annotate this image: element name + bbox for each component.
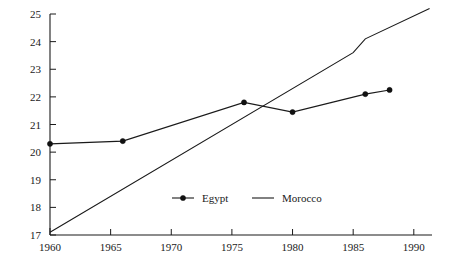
- legend-label: Morocco: [282, 192, 322, 204]
- chart-legend: EgyptMorocco: [172, 192, 322, 204]
- x-axis-tick-label: 1985: [342, 241, 365, 253]
- y-axis-tick-label: 20: [30, 146, 42, 158]
- legend-item-morocco: Morocco: [252, 192, 322, 204]
- legend-marker-dot: [180, 195, 185, 200]
- data-point: [120, 138, 125, 143]
- y-axis-tick-label: 22: [30, 91, 41, 103]
- x-axis-ticks: [50, 228, 414, 235]
- x-axis-tick-label: 1990: [403, 241, 426, 253]
- x-axis-tick-label: 1965: [100, 241, 123, 253]
- legend-item-egypt: Egypt: [172, 192, 228, 204]
- data-point: [290, 109, 295, 114]
- y-axis-tick-label: 23: [30, 63, 42, 75]
- data-point: [241, 100, 246, 105]
- x-axis-tick-label: 1960: [39, 241, 62, 253]
- y-axis-tick-label: 21: [30, 119, 41, 131]
- data-point: [363, 92, 368, 97]
- y-axis-tick-label: 19: [30, 174, 42, 186]
- x-axis-tick-label: 1980: [282, 241, 305, 253]
- y-axis-tick-label: 17: [30, 229, 42, 241]
- data-series: [47, 8, 429, 232]
- y-axis-tick-labels: 171819202122232425: [30, 8, 42, 241]
- data-point: [47, 141, 52, 146]
- x-axis-tick-label: 1970: [160, 241, 183, 253]
- y-axis-tick-label: 24: [30, 36, 42, 48]
- series-line-morocco: [50, 8, 430, 232]
- series-morocco: [50, 8, 430, 232]
- data-point: [387, 87, 392, 92]
- series-line-egypt: [50, 90, 390, 144]
- x-axis-tick-labels: 1960196519701975198019851990: [39, 241, 425, 253]
- chart-container: 171819202122232425 196019651970197519801…: [0, 0, 452, 265]
- series-egypt: [47, 87, 392, 146]
- legend-label: Egypt: [202, 192, 228, 204]
- y-axis-tick-label: 18: [30, 201, 42, 213]
- line-chart: 171819202122232425 196019651970197519801…: [0, 0, 452, 265]
- y-axis-tick-label: 25: [30, 8, 42, 20]
- x-axis-tick-label: 1975: [221, 241, 244, 253]
- axes: 171819202122232425 196019651970197519801…: [30, 8, 432, 253]
- y-axis-ticks: [50, 14, 56, 235]
